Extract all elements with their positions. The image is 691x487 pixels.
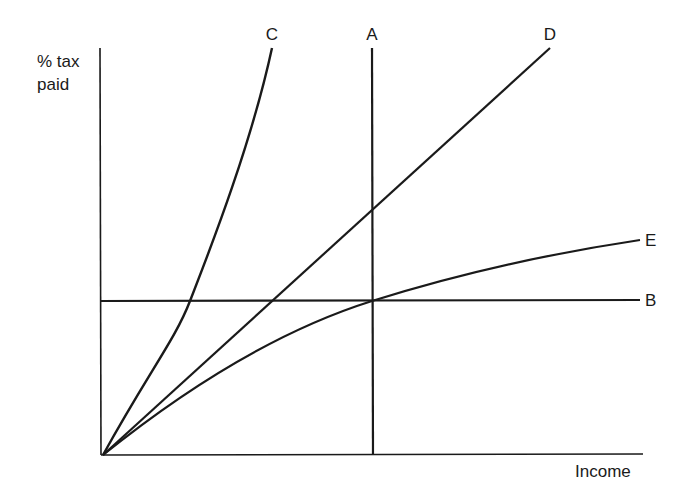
label-c: C [266,26,278,44]
y-axis-label-line1: % tax [37,50,80,73]
curve-a [372,48,373,455]
label-b: B [645,292,656,310]
tax-diagram [0,0,691,487]
label-a: A [366,26,377,44]
y-axis [100,48,101,455]
y-axis-label-line2: paid [37,73,80,96]
y-axis-label: % tax paid [37,50,80,96]
label-d: D [544,26,556,44]
x-axis-label: Income [575,463,631,481]
label-e: E [645,232,656,250]
curve-d [103,48,550,455]
